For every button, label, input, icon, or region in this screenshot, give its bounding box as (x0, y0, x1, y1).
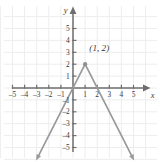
x-tick-label: 2 (95, 90, 99, 99)
plot-background (0, 0, 160, 162)
x-tick-label: 3 (107, 90, 111, 99)
plotted-points (83, 62, 87, 66)
y-tick-label: –2 (61, 107, 70, 116)
graph-figure: –5–4–3–2–112345–5–4–3–2–112345 (1, 2) xy (0, 0, 160, 162)
point-marker-vertex (83, 62, 87, 66)
y-tick-label: 1 (66, 72, 70, 81)
y-tick-label: –4 (61, 131, 70, 140)
y-tick-label: –5 (61, 143, 70, 152)
x-tick-label: 1 (83, 90, 87, 99)
y-tick-label: 2 (66, 60, 70, 69)
y-tick-label: –3 (61, 119, 70, 128)
x-tick-label: –4 (20, 90, 29, 99)
x-axis-label: x (150, 91, 155, 100)
vertex-coordinate-label: (1, 2) (89, 43, 109, 53)
x-tick-label: –3 (32, 90, 41, 99)
annotations: (1, 2) (89, 43, 109, 53)
y-tick-label: 4 (66, 36, 70, 45)
y-tick-label: –1 (61, 96, 70, 105)
x-tick-label: –2 (44, 90, 53, 99)
x-tick-label: 5 (132, 90, 136, 99)
y-tick-label: 3 (66, 48, 70, 57)
x-tick-label: –5 (8, 90, 17, 99)
y-axis-label: y (63, 6, 68, 15)
x-tick-label: 4 (120, 90, 124, 99)
coordinate-plane-plot: –5–4–3–2–112345–5–4–3–2–112345 (1, 2) xy (0, 0, 160, 162)
y-tick-label: 5 (66, 24, 70, 33)
